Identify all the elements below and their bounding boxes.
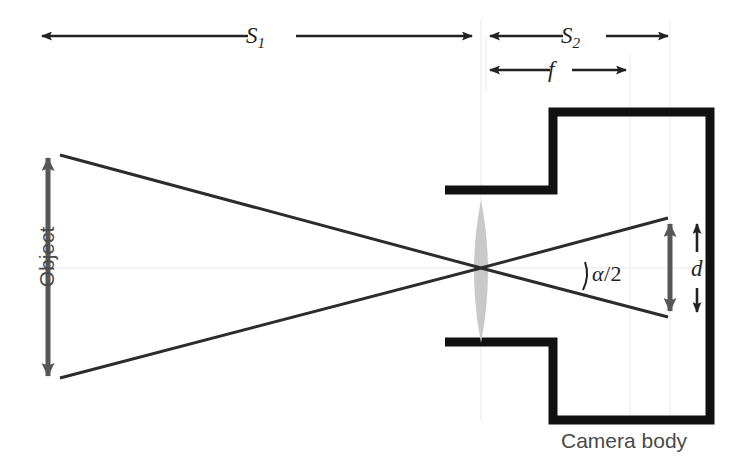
converging-lens	[474, 200, 488, 343]
label-alpha-over-2: α/2	[592, 261, 622, 287]
label-s1: S1	[246, 23, 265, 52]
upper-ray	[60, 155, 668, 268]
guide-lines	[38, 20, 710, 420]
optics-diagram	[0, 0, 735, 470]
lower-ray	[60, 268, 668, 378]
figure-canvas: S1 S2 f d α/2 Object Camera body	[0, 0, 735, 470]
label-s2: S2	[561, 23, 580, 52]
angle-arc-alpha	[583, 262, 587, 290]
label-f: f	[548, 57, 554, 83]
label-camera-body: Camera body	[561, 429, 687, 453]
label-d: d	[691, 256, 703, 282]
label-object: Object	[35, 202, 59, 312]
